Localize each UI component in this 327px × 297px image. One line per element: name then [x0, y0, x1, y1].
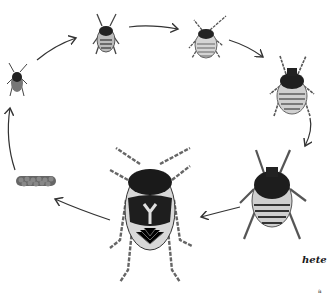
egg-mass: [16, 176, 56, 187]
nymph-instar-4: [270, 56, 314, 116]
nymph-instar-1: [7, 63, 27, 96]
nymph-instar-3: [189, 16, 226, 58]
nymph-instar-5: [240, 150, 306, 239]
adult-bug: [110, 148, 192, 282]
corner-mark: a: [318, 287, 322, 294]
figure-label-partial: hete: [302, 254, 327, 265]
nymph-instar-2: [93, 14, 119, 54]
